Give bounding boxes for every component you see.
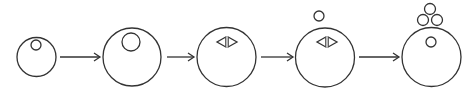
- spindle-left-triangle: [317, 37, 326, 47]
- stage-2: [103, 28, 161, 86]
- cell-circle: [17, 38, 56, 77]
- stage-4: [296, 11, 355, 87]
- stage-1: [17, 38, 56, 77]
- stages-layer: [17, 4, 461, 88]
- arrows-layer: [60, 53, 399, 61]
- stage-3: [197, 28, 256, 87]
- arrow-4: [359, 53, 399, 61]
- inner-circle: [122, 33, 140, 51]
- inner-circle: [31, 40, 41, 50]
- spindle-center-bar: [326, 37, 328, 47]
- cell-circle: [197, 28, 256, 87]
- spindle-center-bar: [226, 37, 228, 47]
- arrow-2: [167, 53, 194, 61]
- cell-circle: [402, 28, 461, 87]
- outer-circle: [314, 11, 324, 21]
- spindle-right-triangle: [328, 37, 337, 47]
- spindle-right-triangle: [228, 37, 237, 47]
- outer-circle: [425, 4, 436, 15]
- cell-circle: [103, 28, 161, 86]
- arrow-1: [60, 53, 100, 61]
- outer-circle: [418, 15, 429, 26]
- inner-circle: [426, 37, 436, 47]
- spindle-left-triangle: [217, 37, 226, 47]
- outer-circle: [432, 15, 443, 26]
- spindle-icon: [317, 37, 337, 47]
- stage-5: [402, 4, 461, 87]
- arrow-3: [261, 53, 293, 61]
- process-diagram: [0, 0, 476, 94]
- spindle-icon: [217, 37, 237, 47]
